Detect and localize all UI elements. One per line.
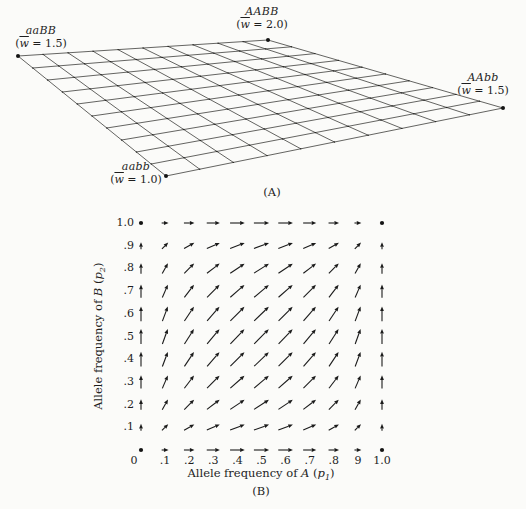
mesh-node: [435, 121, 436, 122]
field-arrow-shaft: [162, 289, 166, 298]
mean-fitness-value: (w = 1.5): [5, 37, 77, 50]
field-arrow-head: [288, 400, 293, 404]
field-arrow-shaft: [230, 333, 241, 344]
field-arrow-shaft: [355, 403, 359, 409]
field-arrow-head: [215, 221, 220, 225]
field-arrow-shaft: [184, 310, 191, 320]
mesh-node: [154, 69, 155, 70]
field-arrow-shaft: [329, 267, 336, 274]
mesh-node: [333, 70, 334, 71]
fitness-rest: = 1.5): [471, 84, 509, 97]
field-arrow-shaft: [278, 266, 288, 273]
x-tick-label: .4: [224, 454, 250, 467]
y-axis-gene: B: [91, 288, 105, 296]
field-arrow-head: [380, 285, 384, 290]
surface-corner-dot: [501, 106, 505, 110]
mesh-node: [105, 100, 106, 101]
mesh-node: [359, 111, 360, 112]
mesh-node: [133, 96, 134, 97]
mesh-node: [117, 49, 118, 50]
field-arrow-shaft: [207, 288, 216, 297]
mesh-node: [190, 89, 191, 90]
genotype-label-aabb: aabb (w = 1.0): [100, 160, 172, 186]
mesh-node: [89, 88, 90, 89]
mesh-node: [183, 129, 184, 130]
field-arrow-head: [312, 448, 317, 452]
field-arrow-head: [240, 424, 245, 428]
mesh-node: [315, 132, 316, 133]
mesh-node: [479, 101, 480, 102]
mesh-node: [232, 134, 233, 135]
mesh-node: [307, 108, 308, 109]
mesh-node: [385, 73, 386, 74]
field-arrow-shaft: [329, 427, 335, 431]
field-arrow-shaft: [207, 333, 216, 344]
field-arrow-head: [357, 307, 361, 312]
field-arrow-head: [240, 448, 245, 452]
field-arrow-shaft: [279, 333, 290, 344]
field-arrow-head: [240, 221, 245, 225]
field-arrow-shaft: [207, 379, 216, 388]
mesh-node: [179, 103, 180, 104]
mesh-node: [197, 113, 198, 114]
field-arrow-shaft: [230, 426, 240, 430]
mesh-node: [266, 155, 267, 156]
field-arrow-shaft: [355, 380, 359, 389]
mesh-node: [446, 107, 447, 108]
field-arrow-shaft: [329, 310, 336, 320]
mesh-node: [227, 72, 228, 73]
field-arrow-shaft: [329, 288, 336, 297]
mesh-node: [187, 55, 188, 56]
y-axis-symbol: p: [91, 272, 105, 279]
mesh-node: [297, 86, 298, 87]
mesh-node: [327, 117, 328, 118]
mesh-node: [181, 66, 182, 67]
field-arrow-shaft: [162, 246, 165, 249]
mean-fitness-symbol: w: [461, 84, 470, 97]
field-arrow-shaft: [162, 356, 166, 366]
fitness-rest: = 1.5): [29, 37, 67, 50]
mesh-node: [469, 114, 470, 115]
mesh-node: [247, 81, 248, 82]
field-arrow-head: [311, 425, 316, 429]
field-arrow-shaft: [355, 356, 359, 366]
mesh-node: [380, 119, 381, 120]
field-arrow-head: [139, 306, 143, 311]
fitness-landscape-figure: aaBB (w = 1.5) AABB (w = 2.0) AAbb (w = …: [0, 0, 526, 509]
mesh-node: [267, 90, 268, 91]
mesh-node: [288, 56, 289, 57]
mesh-node: [282, 138, 283, 139]
mesh-node: [142, 47, 143, 48]
mesh-node: [117, 85, 118, 86]
mean-fitness-value: (w = 1.5): [447, 84, 519, 97]
mesh-node: [219, 85, 220, 86]
mesh-node: [167, 46, 168, 47]
field-arrow-head: [139, 263, 143, 268]
mesh-node: [167, 118, 168, 119]
field-arrow-head: [190, 221, 195, 225]
genotype-label-AAbb: AAbb (w = 1.5): [447, 71, 519, 97]
field-arrow-head: [164, 285, 168, 290]
field-arrow-head: [139, 399, 143, 404]
field-arrow-head: [311, 243, 316, 247]
mesh-node: [100, 74, 101, 75]
field-arrow-shaft: [254, 402, 265, 409]
mesh-node: [339, 103, 340, 104]
mesh-node: [378, 85, 379, 86]
x-tick-label: .3: [200, 454, 226, 467]
field-arrow-head: [288, 424, 293, 428]
mesh-node: [209, 99, 210, 100]
field-arrow-head: [357, 329, 361, 334]
field-arrow-head: [334, 221, 339, 225]
field-arrow-head: [215, 425, 220, 429]
y-tick-label: .3: [104, 375, 134, 388]
y-tick-label: .8: [104, 261, 134, 274]
field-arrow-head: [380, 242, 384, 247]
field-arrow-shaft: [162, 311, 166, 321]
genotype-label-aaBB: aaBB (w = 1.5): [5, 24, 77, 50]
mean-fitness-symbol: w: [240, 18, 249, 31]
field-arrow-shaft: [207, 403, 216, 410]
field-arrow-shaft: [184, 333, 191, 344]
equilibrium-dot: [380, 448, 384, 452]
mesh-node: [291, 46, 292, 47]
